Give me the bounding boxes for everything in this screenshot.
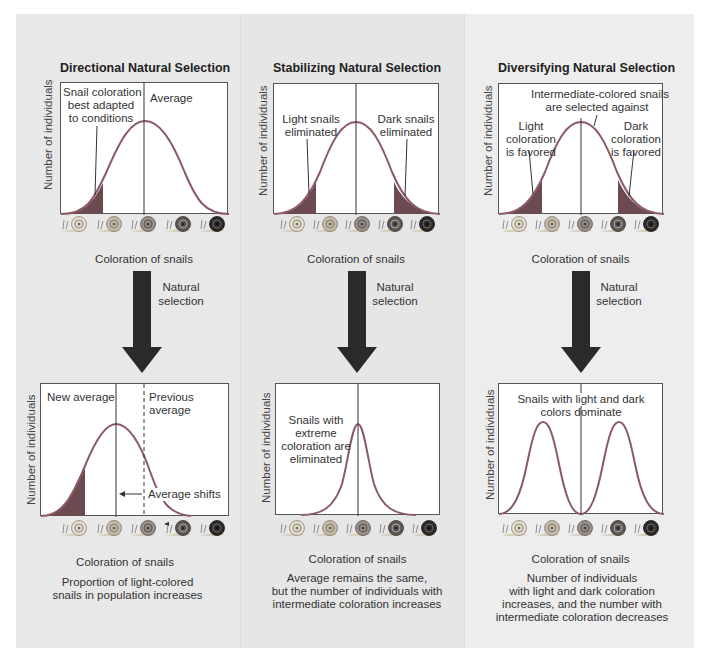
note-line: eliminated [280, 126, 342, 139]
title-diversifying: Diversifying Natural Selection [498, 61, 663, 75]
snail-darkest-icon [632, 214, 662, 233]
snail-row [278, 214, 438, 233]
snail-medium-icon [344, 518, 374, 537]
description-line: with light and dark coloration [482, 585, 682, 598]
note-line: extreme [281, 427, 351, 440]
note-line: Light [505, 120, 557, 133]
note-line: colors dominate [511, 406, 651, 419]
note-line: Previous [149, 391, 194, 404]
arrow-head [122, 347, 162, 373]
snail-dark-icon [599, 214, 629, 233]
note-line: Snails with [281, 414, 351, 427]
snail-medium-icon [566, 214, 596, 233]
note-line: coloration [505, 133, 557, 146]
description-line: increases, and the number with [482, 598, 682, 611]
note-line: to conditions [63, 112, 139, 125]
snail-row [60, 214, 228, 233]
y-axis-label: Number of individuals [25, 394, 37, 505]
snail-light-icon [311, 214, 341, 233]
snail-light-icon [95, 214, 125, 233]
note-light-dark-dominate: Snails with light and dark colors domina… [511, 393, 651, 419]
x-axis-label: Coloration of snails [498, 553, 663, 565]
arrow-shaft [133, 271, 151, 347]
arrow-head [337, 347, 377, 373]
snail-darkest-icon [408, 214, 438, 233]
note-new-average: New average [47, 391, 115, 404]
note-line: coloration [610, 133, 662, 146]
y-axis-label: Number of individuals [42, 79, 54, 190]
note-average: Average [150, 92, 193, 105]
snail-row [60, 518, 228, 537]
snail-row [278, 518, 440, 537]
note-extreme-eliminated: Snails with extreme coloration are elimi… [281, 414, 351, 466]
snail-lightest-icon [500, 518, 530, 537]
snail-medium-icon [343, 214, 373, 233]
arrow-shaft [572, 271, 590, 347]
y-axis-label: Number of individuals [257, 85, 269, 196]
chart-diversifying-before: Intermediate-colored snails are selected… [498, 83, 663, 214]
x-axis-label: Coloration of snails [498, 253, 663, 265]
snail-dark-icon [164, 518, 194, 537]
x-axis-label: Coloration of snails [40, 556, 210, 568]
snail-row [500, 214, 662, 233]
description-diversifying: Number of individuals with light and dar… [482, 572, 682, 624]
note-line: Dark snails [375, 113, 437, 126]
snail-darkest-icon [410, 518, 440, 537]
note-line: coloration are [281, 440, 351, 453]
description-line: but the number of individuals with [262, 585, 452, 598]
note-line: best adapted [63, 99, 139, 112]
snail-dark-icon [376, 214, 406, 233]
note-dark-favored: Dark coloration is favored [610, 120, 662, 159]
snail-lightest-icon [60, 518, 90, 537]
arrow-head [561, 347, 601, 373]
y-axis-label: Number of individuals [482, 85, 494, 196]
snail-dark-icon [164, 214, 194, 233]
snail-light-icon [95, 518, 125, 537]
chart-diversifying-after: Snails with light and dark colors domina… [498, 383, 663, 514]
note-line: average [149, 404, 194, 417]
arrow-label: Natural selection [596, 280, 642, 308]
snail-row [500, 518, 662, 537]
description-stabilizing: Average remains the same, but the number… [262, 572, 452, 611]
snail-light-icon [311, 518, 341, 537]
note-light-eliminated: Light snails eliminated [280, 113, 342, 139]
note-line: Intermediate-colored snails [531, 88, 663, 101]
description-line: intermediate coloration increases [262, 598, 452, 611]
note-light-favored: Light coloration is favored [505, 120, 557, 159]
snail-darkest-icon [198, 518, 228, 537]
snail-lightest-icon [278, 214, 308, 233]
snail-lightest-icon [60, 214, 90, 233]
snail-medium-icon [566, 518, 596, 537]
chart-directional-after: New average Previous average Average shi… [40, 383, 229, 516]
x-axis-label: Coloration of snails [60, 253, 228, 265]
x-axis-label: Coloration of snails [273, 253, 439, 265]
snail-medium-icon [129, 214, 159, 233]
snail-dark-icon [599, 518, 629, 537]
arrow-label: Natural selection [158, 280, 204, 308]
note-line: are selected against [531, 101, 663, 114]
chart-stabilizing-after: Snails with extreme coloration are elimi… [275, 383, 440, 515]
snail-lightest-icon [278, 518, 308, 537]
note-line: Dark [610, 120, 662, 133]
description-line: snails in population increases [30, 589, 225, 602]
title-stabilizing: Stabilizing Natural Selection [273, 61, 439, 75]
note-best-adapted: Snail coloration best adapted to conditi… [63, 86, 139, 125]
note-average-shifts: Average shifts [148, 488, 221, 501]
note-line: Snails with light and dark [511, 393, 651, 406]
description-directional: Proportion of light-colored snails in po… [30, 576, 225, 602]
note-line: is favored [505, 146, 557, 159]
arrow-shaft [348, 271, 366, 347]
arrow-label-text: Natural selection [372, 281, 417, 307]
chart-directional-before: Snail coloration best adapted to conditi… [60, 82, 228, 214]
curve-stabilizing-before [274, 84, 440, 215]
note-line: Light snails [280, 113, 342, 126]
x-axis-label: Coloration of snails [275, 553, 440, 565]
description-line: Average remains the same, [262, 572, 452, 585]
arrow-label: Natural selection [372, 280, 418, 308]
description-line: Proportion of light-colored [30, 576, 225, 589]
note-dark-eliminated: Dark snails eliminated [375, 113, 437, 139]
snail-lightest-icon [500, 214, 530, 233]
title-directional: Directional Natural Selection [60, 61, 228, 75]
note-line: is favored [610, 146, 662, 159]
arrow-label-text: Natural selection [596, 281, 641, 307]
